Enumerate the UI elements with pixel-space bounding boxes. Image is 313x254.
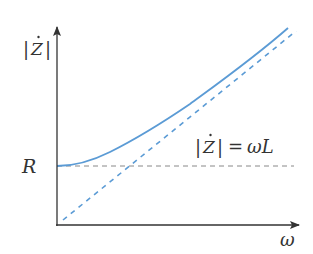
r-label: R [21, 155, 36, 177]
svg-text:|: | [217, 136, 223, 158]
x-axis-label: ω [280, 229, 295, 250]
asymptote-line [63, 31, 296, 220]
svg-text:|: | [45, 38, 51, 60]
svg-text:ωL: ωL [247, 136, 274, 157]
svg-text:Z: Z [30, 39, 44, 59]
svg-text:|: | [195, 136, 201, 158]
svg-text:Z: Z [202, 137, 216, 157]
impedance-diagram: | Z | R | Z | = ωL ω [0, 0, 313, 254]
asymptote-label: | Z | = ωL [195, 134, 274, 158]
svg-text:=: = [228, 136, 243, 157]
svg-text:|: | [23, 38, 29, 60]
y-axis-label: | Z | [23, 36, 51, 60]
